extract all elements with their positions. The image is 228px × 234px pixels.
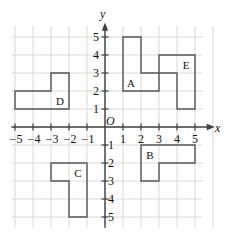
y-tick-label-3: 3 (93, 67, 99, 79)
x-tick-label--3: −3 (46, 133, 59, 145)
x-axis-arrowhead (207, 124, 215, 130)
y-tick-label-1: 1 (93, 103, 99, 115)
y-tick-label--5: 5 (108, 211, 114, 223)
x-tick-label--5: −5 (10, 133, 23, 145)
shape-label-d: D (56, 96, 64, 107)
y-tick-label-2: 2 (93, 85, 99, 97)
x-axis-label: x (215, 122, 220, 134)
shape-label-c: C (74, 168, 81, 179)
coordinate-plane-figure: −5−4−3−2−1123455432112345xyOABCDE (0, 0, 228, 234)
shape-label-b: B (146, 150, 153, 161)
x-tick-label-1: 1 (120, 133, 126, 145)
y-tick-label--4: 4 (108, 193, 114, 205)
y-axis-arrowhead (102, 23, 108, 31)
y-axis-label: y (100, 8, 105, 20)
origin-label: O (106, 115, 115, 127)
x-tick-label-2: 2 (138, 133, 144, 145)
x-tick-label-5: 5 (192, 133, 198, 145)
y-tick-label-5: 5 (93, 31, 99, 43)
y-tick-label--1: 1 (108, 139, 114, 151)
y-tick-label-4: 4 (93, 49, 99, 61)
shape-label-e: E (183, 60, 190, 71)
x-tick-label--2: −2 (64, 133, 77, 145)
x-tick-label-3: 3 (156, 133, 162, 145)
x-tick-label-4: 4 (174, 133, 180, 145)
y-tick-label--2: 2 (108, 157, 114, 169)
x-tick-label--4: −4 (28, 133, 41, 145)
y-tick-label--3: 3 (108, 175, 114, 187)
shape-label-a: A (127, 78, 135, 89)
x-tick-label--1: −1 (82, 133, 95, 145)
